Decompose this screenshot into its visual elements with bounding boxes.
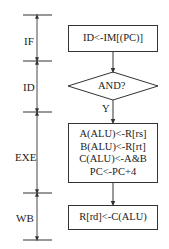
stage-label-wb: WB xyxy=(16,212,34,224)
writeback-box: R[rd]<-C(ALU) xyxy=(68,205,158,230)
execute-line-2: B(ALU)<-R[rt] xyxy=(80,141,145,154)
execute-line-3: C(ALU)<-A&B xyxy=(79,153,147,166)
stage-label-id: ID xyxy=(23,81,35,93)
stage-label-if: IF xyxy=(24,35,34,47)
decision-yes-label: Y xyxy=(102,103,110,115)
stage-label-exe: EXE xyxy=(15,151,36,163)
writeback-box-text: R[rd]<-C(ALU) xyxy=(79,211,147,224)
fetch-box-text: ID<-IM[(PC)] xyxy=(83,32,143,45)
execute-box: A(ALU)<-R[rs] B(ALU)<-R[rt] C(ALU)<-A&B … xyxy=(68,123,158,183)
decision-text: AND? xyxy=(98,80,125,92)
execute-line-1: A(ALU)<-R[rs] xyxy=(79,128,146,141)
fetch-box: ID<-IM[(PC)] xyxy=(68,25,158,52)
execute-line-4: PC<-PC+4 xyxy=(90,166,136,179)
stage-boundaries xyxy=(23,15,52,240)
